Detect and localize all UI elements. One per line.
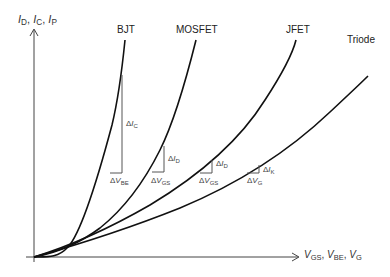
mosfet-delta-vgs-label: ΔVGS bbox=[151, 177, 170, 186]
x-axis bbox=[26, 253, 299, 261]
bjt-label: BJT bbox=[117, 25, 135, 35]
x-axis-label-vg: VG bbox=[349, 249, 362, 260]
bjt-delta-vbe-label: ΔVBE bbox=[110, 177, 129, 186]
bjt-curve bbox=[34, 40, 125, 257]
triode-delta-ik-label: ΔIK bbox=[263, 166, 275, 175]
triode-delta-vg-label: ΔVG bbox=[247, 177, 262, 186]
transfer-characteristics-diagram bbox=[0, 0, 390, 277]
x-axis-label-vbe: VBE bbox=[327, 249, 344, 260]
triode-label: Triode bbox=[347, 35, 375, 45]
triode-curve bbox=[34, 76, 368, 257]
y-axis-label: ID, IC, IP bbox=[18, 14, 57, 27]
mosfet-label: MOSFET bbox=[176, 25, 218, 35]
mosfet-slope-triangle bbox=[152, 146, 164, 172]
bjt-delta-ic-label: ΔIC bbox=[126, 120, 138, 129]
x-axis-label: VGS, VBE, VG bbox=[304, 250, 362, 261]
y-axis-label-ic: IC bbox=[33, 13, 42, 25]
mosfet-delta-id-label: ΔID bbox=[168, 155, 180, 164]
y-axis-label-ip: IP bbox=[48, 13, 57, 25]
jfet-delta-vgs-label: ΔVGS bbox=[199, 177, 218, 186]
jfet-label: JFET bbox=[286, 25, 310, 35]
x-axis-label-vgs: VGS bbox=[304, 249, 322, 260]
y-axis-label-id: ID bbox=[18, 13, 27, 25]
y-axis bbox=[30, 29, 38, 262]
jfet-delta-id-label: ΔID bbox=[216, 160, 228, 169]
jfet-curve bbox=[34, 40, 296, 257]
